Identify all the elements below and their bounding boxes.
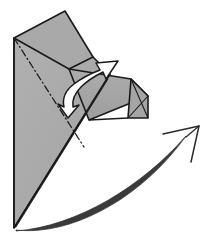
origami-figure: Origami folding step diagram Grey paper … xyxy=(0,0,207,242)
origami-diagram-canvas: Origami folding step diagram Grey paper … xyxy=(0,0,207,242)
